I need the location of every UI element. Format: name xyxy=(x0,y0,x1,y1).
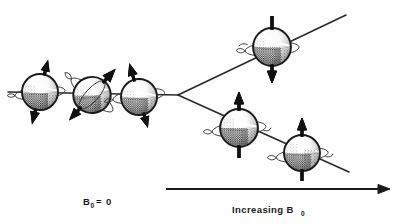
spin-arrowhead-bottom-overlay xyxy=(28,111,39,124)
zero-field-symbol: B xyxy=(83,196,90,207)
spin-aligned-up-lower-2 xyxy=(267,118,334,181)
spin-splitting-figure: B 0 = 0 Increasing B 0 xyxy=(0,0,393,224)
precession-tail xyxy=(7,93,15,97)
spin-aligned-down-upper xyxy=(236,16,300,83)
zero-field-relation: = xyxy=(96,196,102,207)
spin-random-2 xyxy=(60,67,118,123)
spin-arrowhead-top-overlay xyxy=(42,60,52,72)
increasing-field-subscript: 0 xyxy=(301,210,305,217)
precession-tail xyxy=(267,155,276,160)
figure-canvas: B 0 = 0 Increasing B 0 xyxy=(0,0,393,224)
increasing-field-text: Increasing B xyxy=(232,204,294,215)
precession-tail xyxy=(236,48,245,53)
precession-tail xyxy=(203,129,212,134)
zero-field-label: B 0 = 0 xyxy=(83,196,112,209)
spin-arrowhead-bottom-overlay xyxy=(141,116,151,128)
spin-aligned-up-lower-1 xyxy=(203,92,272,158)
zero-field-subscript: 0 xyxy=(91,202,95,209)
lower-level-spin-up-line xyxy=(178,95,349,172)
spin-arrowhead-top-overlay xyxy=(234,92,243,104)
zero-field-value: 0 xyxy=(106,196,112,207)
spin-arrowhead-top-overlay xyxy=(298,118,307,130)
precession-tail-2 xyxy=(239,43,248,46)
increasing-b0-axis xyxy=(166,184,390,193)
axis-arrowhead xyxy=(378,184,390,193)
spin-arrowhead-bottom-overlay xyxy=(267,71,276,83)
spin-arrowhead-top-overlay xyxy=(125,63,136,76)
increasing-field-label: Increasing B 0 xyxy=(232,204,305,217)
